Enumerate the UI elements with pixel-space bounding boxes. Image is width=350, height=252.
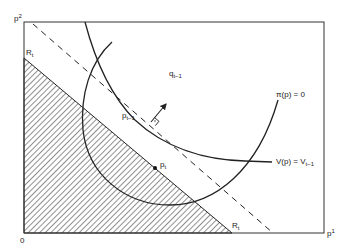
x-axis-label: p1 [327,230,335,238]
right-angle-dot [154,120,155,121]
x-axis-label-sup: 1 [331,228,334,234]
point-p-t [153,166,157,170]
p-prev-sub: t−1 [126,115,135,121]
y-axis-label: p2 [14,15,22,23]
r-t-y-label: Rt [26,49,33,57]
hatched-region [24,58,232,233]
value-curve-label-sub: t−1 [306,161,315,167]
value-curve-label-base: V(p) = V [276,157,306,166]
diagram-canvas [0,0,350,252]
q-prev-sub: t−1 [173,73,182,79]
r-t-x-label: Rt [232,222,239,230]
value-curve-label: V(p) = Vt−1 [276,158,314,166]
p-t-label: pt [160,161,166,169]
origin-label: 0 [20,237,24,245]
q-prev-label: qt−1 [169,70,182,78]
r-x-base: R [232,221,238,230]
normal-vector-arrow [151,104,166,122]
p-t-sub: t [164,164,166,170]
profit-curve-label: π(p) = 0 [276,91,305,99]
r-y-base: R [26,48,32,57]
p-prev-label: pt−1 [122,112,135,120]
y-axis-label-sup: 2 [18,13,21,19]
